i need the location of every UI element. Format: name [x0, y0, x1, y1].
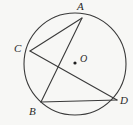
vertex-label-a: A — [77, 1, 84, 12]
center-point-dot — [73, 61, 76, 64]
chord-cd — [30, 51, 117, 100]
vertex-label-b: B — [29, 106, 36, 117]
geometry-canvas — [0, 0, 133, 125]
circle-geometry-figure: A C B D O — [0, 0, 133, 125]
vertex-label-c: C — [14, 43, 21, 54]
center-label-o: O — [80, 54, 87, 64]
chord-bd — [41, 100, 117, 102]
vertex-label-d: D — [120, 95, 128, 106]
